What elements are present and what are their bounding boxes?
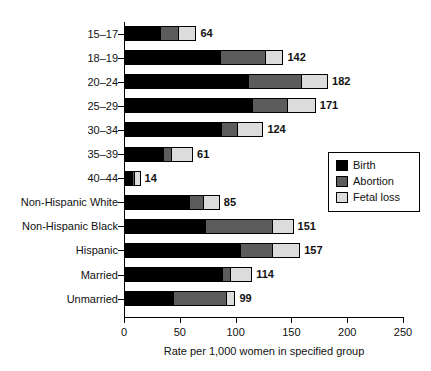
y-axis-tick xyxy=(118,202,124,203)
bar-total-label: 99 xyxy=(239,291,251,306)
category-label: Married xyxy=(81,268,118,282)
x-axis-title: Rate per 1,000 women in specified group xyxy=(124,345,404,357)
bar-row: 124 xyxy=(124,122,403,137)
category-label: Hispanic xyxy=(76,243,118,257)
bar-row: 182 xyxy=(124,74,403,89)
x-axis-tick-label: 200 xyxy=(338,326,356,338)
x-axis-tick xyxy=(236,318,237,323)
bar-segment-abortion xyxy=(248,74,303,89)
bar-row: 157 xyxy=(124,243,403,258)
bar-total-label: 182 xyxy=(332,74,350,89)
bar-total-label: 114 xyxy=(256,267,274,282)
y-axis-tick xyxy=(118,130,124,131)
bar-segment-fetal-loss xyxy=(171,147,193,162)
bar-segment-abortion xyxy=(252,98,288,113)
legend-label: Birth xyxy=(353,159,376,172)
legend-swatch-icon xyxy=(336,192,348,203)
y-axis-tick xyxy=(118,106,124,107)
bar-total-label: 142 xyxy=(287,50,305,65)
category-axis-labels: 15–1718–1920–2425–2930–3435–3940–44Non-H… xyxy=(0,0,118,320)
bar-segment-fetal-loss xyxy=(272,243,300,258)
y-axis-line xyxy=(124,22,125,317)
bar-row: 64 xyxy=(124,26,403,41)
x-axis-tick xyxy=(403,318,404,323)
bar-segment-fetal-loss xyxy=(287,98,316,113)
x-axis-tick-label: 100 xyxy=(226,326,244,338)
x-axis-line xyxy=(124,317,404,318)
bar-total-label: 157 xyxy=(304,243,322,258)
category-label: 20–24 xyxy=(87,75,118,89)
category-label: 30–34 xyxy=(87,123,118,137)
bar-segment-abortion xyxy=(189,195,205,210)
legend-label: Fetal loss xyxy=(353,191,400,204)
bar-segment-abortion xyxy=(220,50,266,65)
bar-segment-fetal-loss xyxy=(178,26,197,41)
bar-total-label: 171 xyxy=(320,98,338,113)
category-label: Unmarried xyxy=(67,292,118,306)
bar-segment-birth xyxy=(124,219,206,234)
bar-segment-fetal-loss xyxy=(134,171,141,186)
y-axis-tick xyxy=(118,58,124,59)
category-label: 35–39 xyxy=(87,147,118,161)
bar-segment-birth xyxy=(124,26,161,41)
bar-row: 142 xyxy=(124,50,403,65)
x-axis-tick xyxy=(124,318,125,323)
bar-segment-birth xyxy=(124,267,223,282)
y-axis-tick xyxy=(118,275,124,276)
bar-segment-fetal-loss xyxy=(203,195,220,210)
bar-segment-abortion xyxy=(173,291,226,306)
bar-total-label: 85 xyxy=(224,195,236,210)
bar-row: 151 xyxy=(124,219,403,234)
bar-total-label: 151 xyxy=(298,219,316,234)
bar-segment-abortion xyxy=(205,219,273,234)
bar-segment-birth xyxy=(124,147,164,162)
bar-row: 99 xyxy=(124,291,403,306)
bar-segment-birth xyxy=(124,122,222,137)
x-axis-tick-label: 0 xyxy=(121,326,127,338)
bar-segment-abortion xyxy=(221,122,238,137)
bar-total-label: 61 xyxy=(197,147,209,162)
bar-total-label: 14 xyxy=(145,171,157,186)
bar-segment-abortion xyxy=(160,26,179,41)
category-label: 40–44 xyxy=(87,171,118,185)
bar-segment-abortion xyxy=(240,243,273,258)
legend-swatch-icon xyxy=(336,160,348,171)
bar-segment-birth xyxy=(124,291,174,306)
bar-segment-fetal-loss xyxy=(301,74,328,89)
bar-segment-fetal-loss xyxy=(265,50,284,65)
legend-label: Abortion xyxy=(353,175,394,188)
y-axis-tick xyxy=(118,226,124,227)
bar-row: 114 xyxy=(124,267,403,282)
y-axis-tick xyxy=(118,34,124,35)
chart-legend: BirthAbortionFetal loss xyxy=(328,152,420,212)
y-axis-tick xyxy=(118,154,124,155)
x-axis-tick-label: 250 xyxy=(394,326,412,338)
y-axis-tick xyxy=(118,82,124,83)
stacked-bar-chart: 15–1718–1920–2425–2930–3435–3940–44Non-H… xyxy=(0,0,431,371)
bar-segment-birth xyxy=(124,74,249,89)
legend-swatch-icon xyxy=(336,176,348,187)
bar-segment-fetal-loss xyxy=(237,122,264,137)
bar-segment-birth xyxy=(124,98,253,113)
bar-row: 171 xyxy=(124,98,403,113)
category-label: 25–29 xyxy=(87,99,118,113)
category-label: 18–19 xyxy=(87,51,118,65)
bar-segment-birth xyxy=(124,50,221,65)
bar-total-label: 64 xyxy=(200,26,212,41)
y-axis-tick xyxy=(118,250,124,251)
bar-segment-fetal-loss xyxy=(272,219,293,234)
bar-segment-birth xyxy=(124,243,241,258)
category-label: Non-Hispanic Black xyxy=(22,219,118,233)
y-axis-tick xyxy=(118,299,124,300)
bar-segment-birth xyxy=(124,195,190,210)
bar-segment-fetal-loss xyxy=(226,291,236,306)
x-axis-tick-label: 150 xyxy=(282,326,300,338)
category-label: Non-Hispanic White xyxy=(21,195,118,209)
x-axis-tick xyxy=(347,318,348,323)
bar-segment-fetal-loss xyxy=(230,267,252,282)
x-axis-tick xyxy=(291,318,292,323)
bar-total-label: 124 xyxy=(267,122,285,137)
x-axis-tick-label: 50 xyxy=(174,326,186,338)
y-axis-tick xyxy=(118,178,124,179)
category-label: 15–17 xyxy=(87,27,118,41)
